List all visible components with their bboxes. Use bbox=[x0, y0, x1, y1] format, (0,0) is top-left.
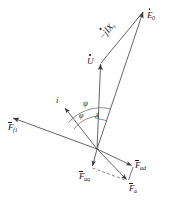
vector-mmf-armature-q bbox=[93, 149, 98, 166]
label-angle-phi: φ bbox=[79, 112, 83, 120]
arc-angle-delta bbox=[98, 119, 107, 121]
vector-voltage-u bbox=[97, 64, 101, 149]
phasor-diagram-figure: E0 −jİXs U i Ff1 Faq Fad Fa ψ φ δ bbox=[0, 0, 174, 205]
label-emf-e0: E0 bbox=[147, 11, 156, 20]
label-voltage-u: U bbox=[87, 57, 94, 66]
label-current-i: i bbox=[56, 96, 59, 105]
label-mmf-armature-a: Fa bbox=[129, 184, 138, 193]
segment-fad-to-fa bbox=[129, 167, 134, 180]
label-angle-psi: ψ bbox=[83, 100, 88, 108]
label-mmf-field-ff1: Ff1 bbox=[8, 123, 18, 132]
label-angle-delta: δ bbox=[95, 113, 99, 121]
vector-mmf-armature-d bbox=[97, 149, 132, 166]
label-mmf-armature-d: Fad bbox=[135, 161, 147, 170]
label-mmf-armature-q: Faq bbox=[79, 172, 91, 181]
vector-mmf-armature-a bbox=[97, 149, 127, 180]
